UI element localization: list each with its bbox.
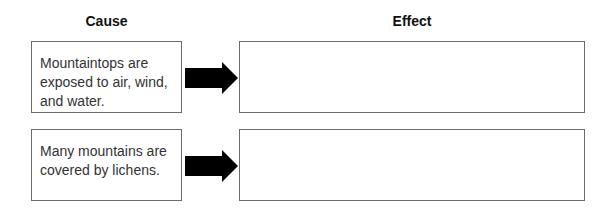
right-arrow-icon <box>185 150 238 182</box>
cause-box-1: Mountaintops are exposed to air, wind, a… <box>31 41 182 113</box>
effect-box-2[interactable] <box>239 129 585 201</box>
cause-box-2: Many mountains are covered by lichens. <box>31 129 182 201</box>
cause-text-1: Mountaintops are exposed to air, wind, a… <box>40 55 168 109</box>
effect-box-1[interactable] <box>239 41 585 113</box>
cause-heading: Cause <box>31 13 182 29</box>
effect-heading: Effect <box>239 13 585 29</box>
right-arrow-icon <box>185 62 238 94</box>
cause-text-2: Many mountains are covered by lichens. <box>40 143 167 178</box>
